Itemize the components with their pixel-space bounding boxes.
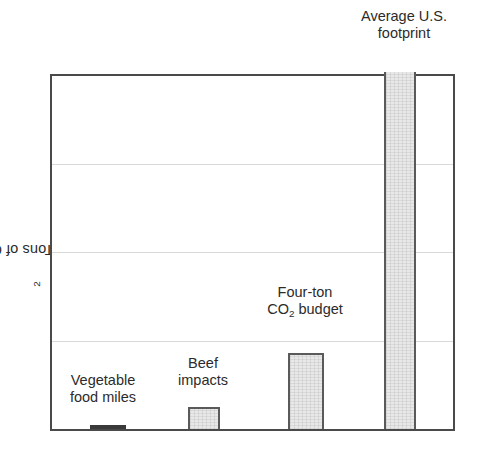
annotation-beef-impacts-line1: Beef — [160, 355, 246, 372]
bar-average-us-footprint — [384, 72, 416, 429]
annotation-average-us-footprint: Average U.S. footprint — [330, 8, 478, 42]
y-axis-label-subscript: 2 — [31, 281, 42, 287]
bar-chart: Tons of CO2 Average U.S. footprint Veget… — [0, 0, 480, 456]
bar-beef-impacts — [188, 407, 220, 429]
bar-four-ton-co2-budget — [288, 353, 324, 429]
annotation-budget-co2-subscript: 2 — [289, 308, 294, 319]
annotation-vegetable-food-miles: Vegetable food miles — [48, 372, 158, 406]
annotation-budget-co2-prefix: CO — [267, 301, 289, 317]
annotation-beef-impacts-line2: impacts — [160, 372, 246, 389]
annotation-average-us-footprint-line2: footprint — [330, 25, 478, 42]
bar-vegetable-food-miles — [90, 425, 126, 429]
annotation-budget-co2-suffix: budget — [294, 301, 342, 317]
y-axis-label-text: Tons of CO — [0, 242, 54, 258]
annotation-beef-impacts: Beef impacts — [160, 355, 246, 389]
y-axis-label: Tons of CO2 — [12, 185, 38, 315]
annotation-vegetable-food-miles-line1: Vegetable — [48, 372, 158, 389]
annotation-average-us-footprint-line1: Average U.S. — [330, 8, 478, 25]
annotation-four-ton-co2-budget: Four-ton CO2 budget — [240, 284, 370, 318]
annotation-four-ton-co2-budget-line2: CO2 budget — [240, 301, 370, 318]
annotation-four-ton-co2-budget-line1: Four-ton — [240, 284, 370, 301]
annotation-vegetable-food-miles-line2: food miles — [48, 389, 158, 406]
